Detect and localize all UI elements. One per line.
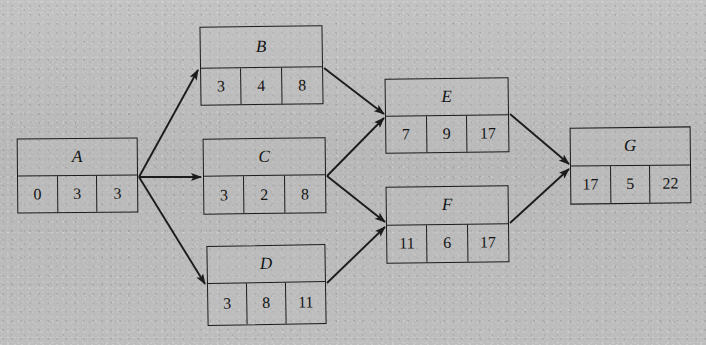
node-f-cells: 11 6 17 [387,224,508,263]
node-d[interactable]: D 3 8 11 [206,244,326,326]
node-c-label: C [204,138,325,176]
node-e-label: E [386,78,508,116]
network-diagram-figure: A 0 3 3 B 3 4 8 C 3 2 8 D 3 8 11 [0,0,706,345]
edge-d-f [327,227,385,283]
node-f-cell-2: 6 [427,224,468,262]
node-e-cell-3: 17 [467,115,508,152]
node-f-label: F [387,186,508,225]
node-a-cells: 0 3 3 [18,175,137,213]
node-g[interactable]: G 17 5 22 [570,126,692,204]
node-d-cell-3: 11 [286,282,326,324]
edge-c-f [327,176,385,222]
node-a-cell-3: 3 [97,175,137,212]
edge-f-g [510,169,569,223]
node-f-cell-1: 11 [387,225,428,263]
node-g-cell-2: 5 [611,165,651,203]
node-f[interactable]: F 11 6 17 [386,185,510,263]
node-b-label: B [200,26,322,68]
node-g-cell-3: 22 [650,165,690,203]
node-a-label: A [18,138,137,176]
node-g-cell-1: 17 [571,166,611,204]
edge-e-g [510,114,569,164]
node-d-cells: 3 8 11 [208,282,326,325]
node-d-cell-2: 8 [247,282,287,324]
node-b-cell-1: 3 [201,68,242,105]
node-b[interactable]: B 3 4 8 [199,25,323,106]
node-c-cells: 3 2 8 [204,175,325,213]
node-c[interactable]: C 3 2 8 [203,137,327,214]
edge-a-d [139,177,205,284]
node-e-cell-1: 7 [386,116,427,153]
edge-a-b [139,70,198,177]
node-g-cells: 17 5 22 [571,165,690,204]
node-c-cell-1: 3 [204,176,245,213]
node-c-cell-3: 8 [285,175,326,212]
node-b-cell-3: 8 [282,67,323,104]
node-e-cells: 7 9 17 [386,115,508,153]
node-c-cell-2: 2 [244,176,285,213]
node-b-cell-2: 4 [241,68,282,105]
node-a-cell-1: 0 [18,176,58,213]
edge-b-e [324,68,384,114]
node-a-cell-2: 3 [58,175,98,212]
node-d-label: D [207,245,325,283]
node-e[interactable]: E 7 9 17 [385,77,510,154]
node-d-cell-1: 3 [208,283,248,325]
node-f-cell-3: 17 [468,224,509,262]
node-e-cell-2: 9 [427,115,468,152]
node-g-label: G [571,127,690,166]
node-b-cells: 3 4 8 [201,67,322,105]
node-a[interactable]: A 0 3 3 [17,137,139,213]
edge-c-e [327,118,384,176]
